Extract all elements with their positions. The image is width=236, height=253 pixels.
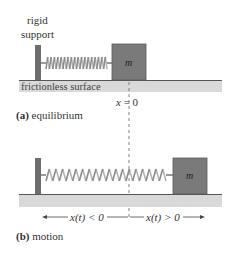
positive-region-label: x(t) > 0	[145, 211, 180, 224]
spring-b	[46, 169, 166, 181]
right-arrowhead-icon	[200, 215, 205, 219]
panel-motion: m x(t) < 0 x(t) > 0 (b) motion	[16, 158, 222, 243]
rigid-support-b	[35, 158, 41, 194]
panel-equilibrium: rigid support frictionless surface m x =…	[16, 14, 222, 122]
spring-a	[46, 57, 107, 69]
caption-motion: (b) motion	[16, 230, 64, 243]
rigid-support-label-line1: rigid	[27, 14, 48, 26]
mass-label-a: m	[125, 57, 132, 68]
negative-region-label: x(t) < 0	[69, 211, 104, 224]
rigid-support-a	[35, 45, 41, 80]
rigid-support-label-line2: support	[21, 28, 54, 40]
frictionless-surface-b	[19, 194, 222, 207]
surface-label: frictionless surface	[21, 81, 101, 92]
x-zero-label: x = 0	[115, 96, 139, 108]
mass-label-b: m	[186, 170, 193, 181]
caption-equilibrium: (a) equilibrium	[16, 109, 83, 122]
left-arrowhead-icon	[42, 215, 47, 219]
spring-mass-diagram: rigid support frictionless surface m x =…	[0, 0, 236, 253]
